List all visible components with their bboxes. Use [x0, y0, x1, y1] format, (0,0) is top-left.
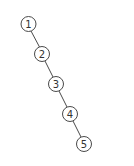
edge-3-4	[59, 91, 67, 107]
tree-node-1: 1	[21, 17, 36, 32]
tree-node-4: 4	[63, 107, 78, 122]
node-label: 1	[25, 19, 31, 30]
tree-node-3: 3	[49, 77, 64, 92]
edge-1-2	[31, 31, 40, 47]
edge-2-3	[45, 61, 53, 77]
node-label: 2	[39, 49, 45, 60]
edge-4-5	[73, 121, 81, 137]
node-label: 4	[67, 109, 73, 120]
tree-diagram: 1 2 3 4 5	[0, 0, 134, 166]
tree-node-2: 2	[35, 47, 50, 62]
tree-node-5: 5	[77, 137, 92, 152]
node-label: 5	[81, 139, 87, 150]
node-label: 3	[53, 79, 59, 90]
